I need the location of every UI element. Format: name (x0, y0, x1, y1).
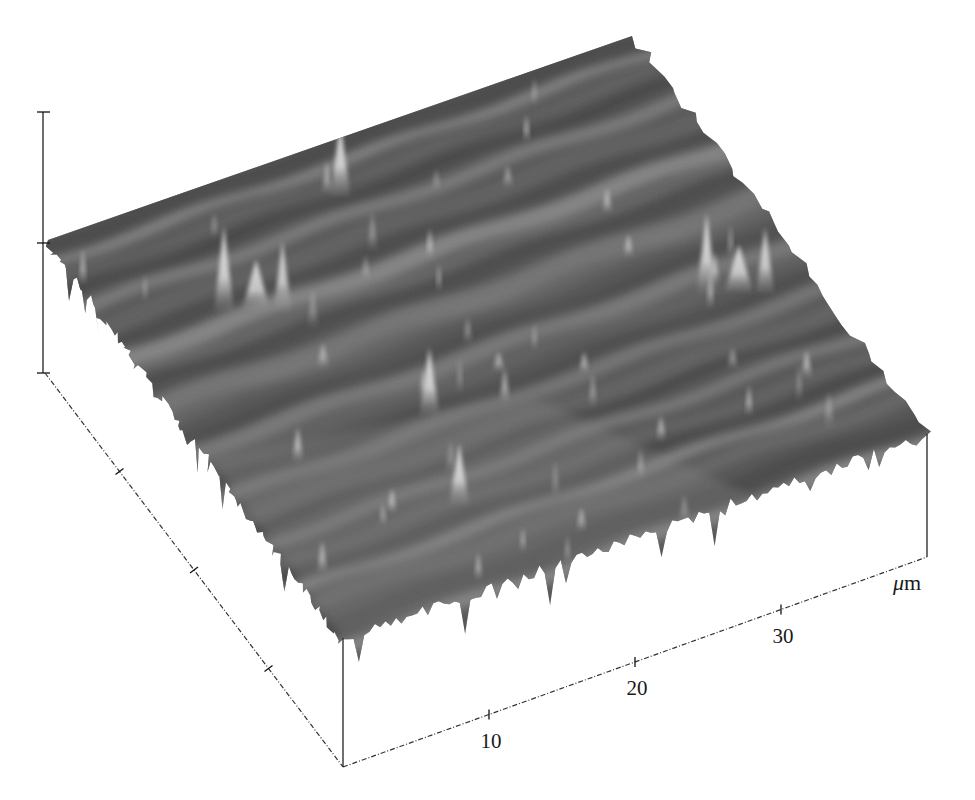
x-axis-tick-label: 10 (481, 729, 502, 753)
x-axis-tick-label: 30 (773, 624, 794, 648)
y-axis-tick (116, 469, 124, 475)
x-axis-tick-label: 20 (627, 676, 648, 700)
surface-topography (0, 0, 975, 800)
y-axis-tick (265, 666, 273, 672)
surface-grain (0, 0, 975, 800)
afm-surface-figure: 102030 μm (0, 0, 975, 800)
y-axis-tick (190, 567, 198, 573)
x-axis-unit-label: μm (892, 570, 921, 595)
